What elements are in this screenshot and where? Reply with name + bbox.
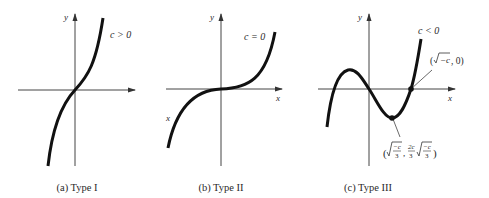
svg-text:−c: −c	[423, 143, 432, 151]
min-annotation: ( −c 3 , 2c 3 −c 3 )	[383, 142, 437, 160]
svg-text:): )	[433, 147, 437, 160]
min-leader-line	[393, 119, 400, 137]
svg-text:−c: −c	[440, 55, 450, 65]
svg-text:3: 3	[425, 152, 429, 160]
svg-text:(: (	[430, 56, 433, 67]
y-axis-label: y	[209, 12, 214, 22]
svg-text:2c: 2c	[408, 143, 416, 151]
y-axis-label: y	[357, 12, 362, 22]
svg-text:, 0): , 0)	[451, 56, 464, 67]
svg-text:3: 3	[409, 152, 413, 160]
curve-type-3	[327, 39, 421, 127]
x-axis-label: x	[447, 93, 452, 103]
panel-b: y x x c = 0 (b) Type II	[165, 12, 282, 194]
y-axis-label: y	[63, 12, 68, 22]
condition-label: c > 0	[110, 29, 131, 40]
curve-x-label: x	[165, 113, 170, 123]
panel-c: y x c < 0 ( −c , 0) ( −c 3 , 2c 3 −c 3 )	[318, 12, 464, 194]
svg-text:−c: −c	[393, 143, 402, 151]
caption: (a) Type I	[56, 182, 98, 194]
caption: (c) Type III	[344, 182, 393, 194]
x-axis-label: x	[275, 93, 280, 103]
svg-text:(: (	[383, 147, 387, 160]
root-point	[408, 86, 414, 92]
svg-text:3: 3	[395, 152, 399, 160]
condition-label: c < 0	[418, 25, 439, 36]
caption: (b) Type II	[198, 182, 244, 194]
condition-label: c = 0	[244, 31, 265, 42]
figure-canvas: y c > 0 (a) Type I y x x c = 0 (b) Type …	[0, 0, 489, 198]
panel-a: y c > 0 (a) Type I	[18, 12, 135, 194]
local-min-point	[389, 115, 395, 121]
root-annotation: ( −c , 0)	[430, 53, 464, 67]
svg-text:,: ,	[403, 148, 405, 158]
